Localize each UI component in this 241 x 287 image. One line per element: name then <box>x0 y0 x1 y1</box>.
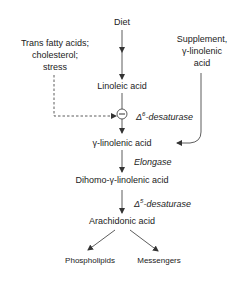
inhibitor-line-2: cholesterol; <box>32 50 78 61</box>
node-phospholipids: Phospholipids <box>65 255 115 266</box>
node-diet: Diet <box>114 17 130 28</box>
enzyme-delta6-desaturase: Δ6-desaturase <box>136 112 193 123</box>
arrow-to-phospholipids <box>88 230 115 250</box>
supplement-line-2: γ-linolenic <box>182 46 222 57</box>
arrow-to-messengers <box>130 230 158 251</box>
node-messengers: Messengers <box>137 255 181 266</box>
node-arachidonic-acid: Arachidonic acid <box>89 216 155 227</box>
supplement-line-1: Supplement, <box>177 34 228 45</box>
arrow-supplement-to-gla <box>177 73 201 143</box>
enzyme-elongase: Elongase <box>134 157 172 168</box>
inhibition-circle-icon <box>117 109 127 119</box>
node-linoleic-acid: Linoleic acid <box>97 81 147 92</box>
inhibitor-line-3: stress <box>43 62 67 73</box>
fatty-acid-pathway-diagram: Diet Trans fatty acids; cholesterol; str… <box>0 0 241 287</box>
supplement-line-3: acid <box>194 58 211 69</box>
enzyme-delta5-desaturase: Δ5-desaturase <box>134 199 191 210</box>
node-dihomo-gamma-linolenic-acid: Dihomo-γ-linolenic acid <box>75 175 168 186</box>
inhibitor-line-1: Trans fatty acids; <box>21 38 89 49</box>
node-gamma-linolenic-acid: γ-linolenic acid <box>92 138 151 149</box>
